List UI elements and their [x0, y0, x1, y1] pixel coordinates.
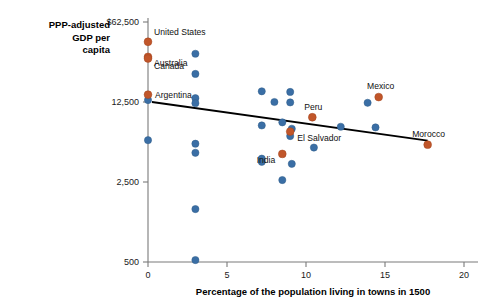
data-point [258, 88, 265, 95]
data-point [192, 149, 199, 156]
data-point-highlighted [278, 150, 286, 158]
x-tick-label: 20 [459, 270, 469, 280]
data-point [192, 100, 199, 107]
data-point [288, 160, 295, 167]
data-point [337, 123, 344, 130]
y-axis-title-line: capita [83, 44, 111, 55]
axis-titles: PPP-adjustedGDP percapitaPercentage of t… [49, 19, 430, 297]
y-axis-ticks: 5002,50012,500$62,500 [106, 17, 148, 267]
x-tick-label: 0 [145, 270, 150, 280]
data-point-highlighted [144, 91, 152, 99]
point-label: Peru [304, 102, 322, 112]
data-point [271, 98, 278, 105]
data-point [192, 140, 199, 147]
point-label: Canada [154, 61, 184, 71]
point-label: United States [154, 27, 206, 37]
scatter-chart: 5002,50012,500$62,500 05101520 United St… [0, 0, 495, 300]
data-point [279, 176, 286, 183]
data-point [144, 137, 151, 144]
y-tick-label: 12,500 [111, 97, 139, 107]
data-point [192, 50, 199, 57]
data-point [192, 70, 199, 77]
x-axis-ticks: 05101520 [145, 262, 469, 280]
x-tick-label: 10 [301, 270, 311, 280]
data-point-highlighted [286, 128, 294, 136]
y-axis-title-line: PPP-adjusted [49, 19, 110, 30]
y-tick-label: $62,500 [106, 17, 139, 27]
x-axis-title: Percentage of the population living in t… [196, 286, 430, 297]
data-point [287, 88, 294, 95]
data-point [192, 205, 199, 212]
point-label: Morocco [412, 129, 445, 139]
data-point [258, 122, 265, 129]
data-point [364, 99, 371, 106]
data-point [192, 256, 199, 263]
y-axis-title-line: GDP per [72, 32, 110, 43]
data-point [310, 144, 317, 151]
y-tick-label: 2,500 [116, 177, 139, 187]
point-label: Mexico [367, 81, 394, 91]
data-point-highlighted [144, 55, 152, 63]
point-label: El Salvador [297, 133, 341, 143]
data-point-highlighted [424, 141, 432, 149]
data-point-highlighted [308, 113, 316, 121]
x-tick-label: 15 [380, 270, 390, 280]
data-point-highlighted [144, 38, 152, 46]
data-point [372, 124, 379, 131]
y-tick-label: 500 [124, 257, 139, 267]
point-label: Argentina [155, 90, 192, 100]
data-point [287, 99, 294, 106]
chart-canvas: 5002,50012,500$62,500 05101520 United St… [0, 0, 495, 300]
point-label: India [257, 155, 276, 165]
data-point-highlighted [375, 93, 383, 101]
x-tick-label: 5 [224, 270, 229, 280]
data-point [279, 119, 286, 126]
